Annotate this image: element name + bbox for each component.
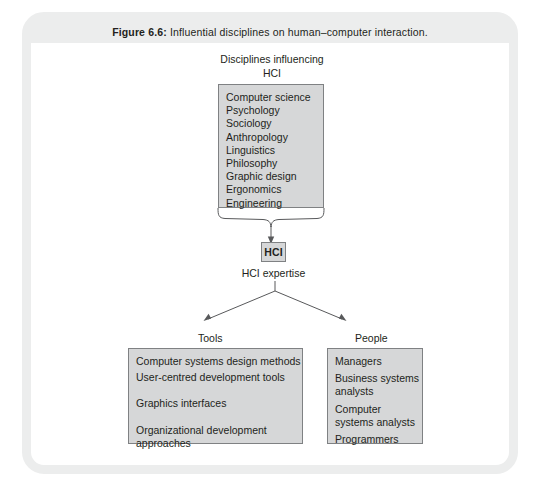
list-item: Computer science [226,91,323,104]
branch-label-people: People [355,332,388,345]
tools-box: Computer systems design methods User-cen… [128,348,303,444]
hci-expertise-label: HCI expertise [193,267,354,279]
figure-caption: Figure 6.6: Influential disciplines on h… [112,26,428,38]
list-item: Business systems analysts [335,372,422,398]
list-item: Sociology [226,117,323,130]
figure-number: Figure 6.6: [112,26,167,38]
list-item: Psychology [226,104,323,117]
list-item: Graphics interfaces [136,397,302,410]
branch-arrows-icon [190,281,360,327]
branch-label-tools: Tools [198,332,223,345]
list-item: User-centred development tools [136,371,302,384]
list-item: Anthropology [226,131,323,144]
list-item: Managers [335,355,422,368]
list-item: Programmers [335,433,422,446]
list-item: Linguistics [226,144,323,157]
hci-node-label: HCI [264,246,283,258]
disciplines-title: Disciplines influencing HCI [168,52,376,80]
list-item: Computer systems analysts [335,403,422,429]
figure-container: Figure 6.6: Influential disciplines on h… [0,0,544,490]
people-box: Managers Business systems analysts Compu… [327,348,423,444]
brace-connector [215,207,327,245]
hci-node: HCI [261,242,286,262]
branch-connectors [190,281,360,327]
list-item: Computer systems design methods [136,355,302,368]
list-item: Graphic design [226,170,323,183]
list-item: Philosophy [226,157,323,170]
disciplines-title-line2: HCI [168,66,376,80]
disciplines-title-line1: Disciplines influencing [168,52,376,66]
list-item: Organizational development approaches [136,424,302,450]
brace-arrow-icon [215,207,327,245]
disciplines-box: Computer science Psychology Sociology An… [218,84,324,208]
figure-caption-bar: Figure 6.6: Influential disciplines on h… [31,21,509,43]
figure-caption-text: Influential disciplines on human–compute… [167,26,428,38]
list-item: Ergonomics [226,183,323,196]
